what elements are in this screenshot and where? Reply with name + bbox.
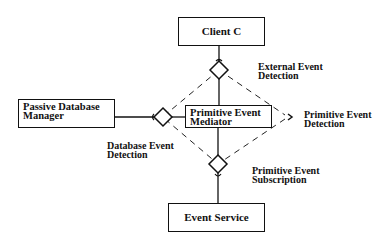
db-manager-label-line2: Manager	[23, 111, 114, 120]
database-event-detection-label: Database Event Detection	[107, 141, 174, 159]
event-service-label: Event Service	[184, 213, 248, 222]
subscription-diamond	[209, 155, 227, 173]
external-detection-diamond	[210, 61, 228, 79]
primitive-event-subscription-label: Primitive Event Subscription	[252, 166, 319, 184]
client-c-label: Client C	[202, 27, 241, 36]
mediator-label-line2: Mediator	[190, 117, 271, 126]
primitive-event-mediator-box: Primitive Event Mediator	[185, 105, 272, 128]
database-detection-diamond	[154, 108, 172, 126]
external-event-detection-label: External Event Detection	[258, 62, 323, 80]
arrow-tip-icon	[288, 114, 292, 120]
primitive-event-detection-label: Primitive Event Detection	[304, 110, 371, 128]
client-c-box: Client C	[178, 17, 265, 46]
event-service-box: Event Service	[168, 203, 265, 232]
passive-database-manager-box: Passive Database Manager	[18, 99, 115, 128]
